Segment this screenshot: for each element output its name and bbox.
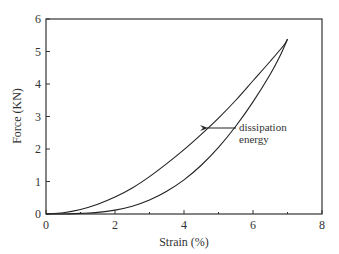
- hysteresis-chart: 024680123456 dissipation energy Strain (…: [0, 0, 339, 254]
- y-axis-title: Force (KN): [10, 88, 24, 144]
- x-axis-title: Strain (%): [159, 235, 209, 249]
- y-tick-label: 0: [35, 207, 41, 221]
- annotation-line1: dissipation: [239, 121, 287, 133]
- y-tick-label: 4: [35, 77, 41, 91]
- x-tick-label: 8: [319, 218, 325, 232]
- annotation-line2: energy: [239, 133, 269, 145]
- plot-frame: [46, 19, 322, 214]
- x-tick-label: 4: [181, 218, 187, 232]
- y-tick-label: 3: [35, 110, 41, 124]
- y-tick-label: 2: [35, 142, 41, 156]
- x-tick-label: 2: [112, 218, 118, 232]
- y-tick-label: 6: [35, 12, 41, 26]
- x-tick-label: 0: [43, 218, 49, 232]
- x-tick-label: 6: [250, 218, 256, 232]
- y-tick-label: 5: [35, 45, 41, 59]
- axis-ticks: [46, 19, 322, 214]
- y-tick-label: 1: [35, 175, 41, 189]
